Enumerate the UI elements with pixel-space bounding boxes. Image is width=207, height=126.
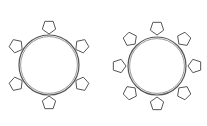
round-table xyxy=(128,37,186,95)
chair-icon xyxy=(150,97,163,110)
chair-icon xyxy=(113,59,126,72)
chair-icon xyxy=(123,32,136,45)
chair-icon xyxy=(76,77,89,90)
table-left xyxy=(9,21,89,108)
chair-icon xyxy=(9,40,22,53)
chair-icon xyxy=(9,77,22,90)
chair-icon xyxy=(42,21,55,34)
chair-icon xyxy=(178,32,191,45)
chair-icon xyxy=(150,22,163,35)
chair-icon xyxy=(123,87,136,100)
round-table xyxy=(19,35,79,95)
chair-icon xyxy=(76,40,89,53)
chair-icon xyxy=(42,96,55,109)
seating-diagram xyxy=(0,0,207,126)
chair-icon xyxy=(188,59,201,72)
table-right xyxy=(113,22,200,109)
chair-icon xyxy=(178,87,191,100)
